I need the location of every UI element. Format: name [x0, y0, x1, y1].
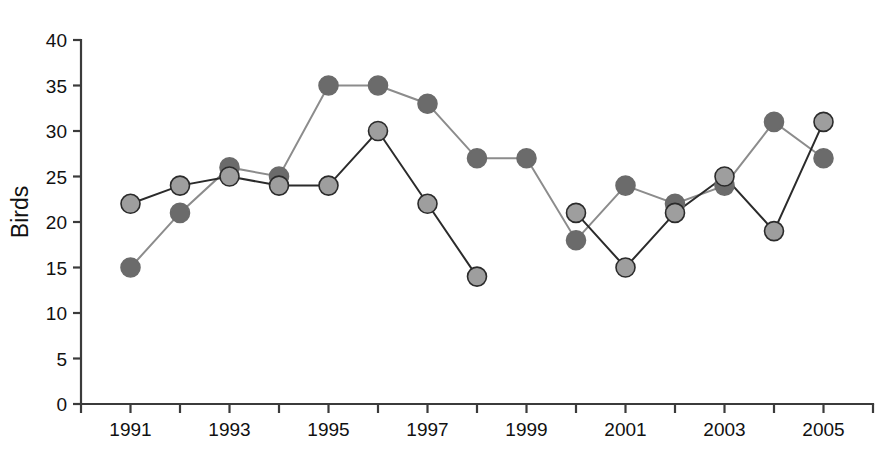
- data-point-marker: [765, 112, 784, 131]
- data-point-marker: [220, 167, 239, 186]
- data-point-marker: [814, 149, 833, 168]
- data-point-marker: [616, 258, 635, 277]
- x-tick-label: 1999: [505, 419, 547, 440]
- data-point-marker: [468, 149, 487, 168]
- series-line: [576, 122, 824, 268]
- x-tick-label: 2005: [802, 419, 844, 440]
- data-point-marker: [715, 167, 734, 186]
- data-point-marker: [567, 231, 586, 250]
- y-tick-label: 25: [46, 167, 67, 188]
- y-tick-label: 5: [56, 349, 67, 370]
- data-point-marker: [121, 194, 140, 213]
- data-point-marker: [171, 203, 190, 222]
- y-tick-label: 20: [46, 212, 67, 233]
- data-point-marker: [814, 112, 833, 131]
- x-tick-label: 2003: [703, 419, 745, 440]
- data-point-marker: [270, 176, 289, 195]
- x-tick-label: 1997: [406, 419, 448, 440]
- data-point-marker: [765, 222, 784, 241]
- chart-canvas: 0510152025303540199119931995199719992001…: [0, 0, 887, 464]
- data-point-marker: [418, 94, 437, 113]
- y-tick-label: 30: [46, 121, 67, 142]
- data-point-marker: [369, 76, 388, 95]
- data-point-marker: [319, 76, 338, 95]
- y-tick-label: 10: [46, 303, 67, 324]
- data-point-marker: [418, 194, 437, 213]
- data-point-marker: [468, 267, 487, 286]
- x-tick-label: 1991: [109, 419, 151, 440]
- y-axis-title: Birds: [7, 186, 33, 238]
- data-point-marker: [616, 176, 635, 195]
- x-tick-label: 2001: [604, 419, 646, 440]
- data-point-marker: [319, 176, 338, 195]
- data-point-marker: [666, 203, 685, 222]
- bird-count-line-chart: 0510152025303540199119931995199719992001…: [0, 0, 887, 464]
- data-point-marker: [567, 203, 586, 222]
- x-tick-label: 1993: [208, 419, 250, 440]
- axis-layer: [81, 40, 873, 404]
- data-point-marker: [517, 149, 536, 168]
- tick-labels-layer: 0510152025303540199119931995199719992001…: [46, 30, 845, 440]
- y-tick-label: 15: [46, 258, 67, 279]
- data-point-marker: [369, 122, 388, 141]
- tick-marks-layer: [73, 40, 873, 413]
- data-point-marker: [121, 258, 140, 277]
- axis-title-layer: Birds: [7, 186, 33, 238]
- data-series-layer: [121, 76, 833, 286]
- y-tick-label: 40: [46, 30, 67, 51]
- x-tick-label: 1995: [307, 419, 349, 440]
- data-point-marker: [171, 176, 190, 195]
- y-tick-label: 0: [56, 394, 67, 415]
- y-tick-label: 35: [46, 76, 67, 97]
